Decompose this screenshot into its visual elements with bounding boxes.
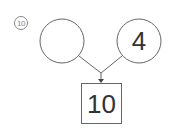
result-box-value: 10 xyxy=(87,89,116,119)
left-connector-line xyxy=(79,56,101,73)
left-circle[interactable] xyxy=(40,19,84,63)
result-box: 10 xyxy=(82,84,122,124)
number-bond-diagram: 4 10 xyxy=(0,0,169,134)
arrow-head-icon xyxy=(98,79,104,83)
right-circle-value: 4 xyxy=(132,26,146,56)
right-connector-line xyxy=(101,56,122,73)
right-circle: 4 xyxy=(117,19,161,63)
